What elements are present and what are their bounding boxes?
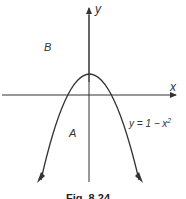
curve-equation: y = 1 − x2 bbox=[129, 119, 171, 129]
parabola-curve bbox=[41, 74, 139, 180]
left-arrowhead-icon bbox=[37, 172, 45, 183]
region-b-label: B bbox=[44, 42, 51, 53]
y-axis-label: y bbox=[95, 3, 101, 15]
figure-canvas bbox=[0, 0, 186, 199]
region-a-label: A bbox=[69, 128, 76, 139]
equation-text: y = 1 − x bbox=[129, 118, 167, 129]
right-arrowhead-icon bbox=[135, 172, 143, 183]
equation-exponent: 2 bbox=[167, 117, 171, 124]
figure-caption: Fig. 8.24 bbox=[66, 192, 110, 199]
x-axis-label: x bbox=[170, 81, 176, 93]
